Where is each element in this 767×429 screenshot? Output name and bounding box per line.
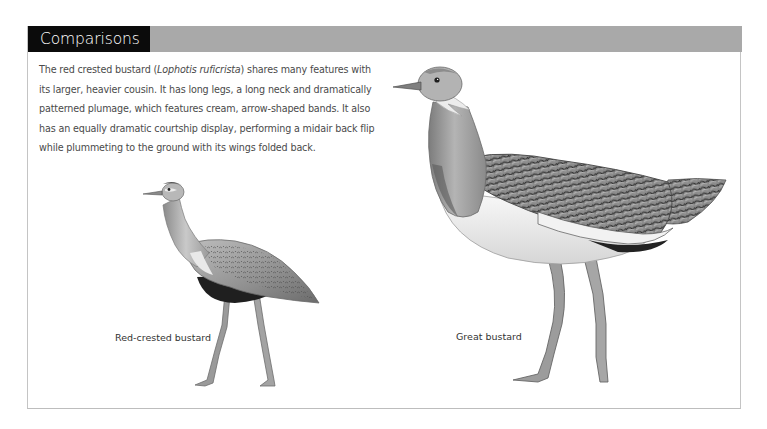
- great-bustard-caption: Great bustard: [456, 331, 522, 342]
- section-header-bar: Comparisons: [28, 26, 742, 52]
- species-latin-name: Lophotis ruficrista: [157, 64, 240, 75]
- section-title: Comparisons: [28, 26, 150, 52]
- red-crested-bustard-illustration: [135, 175, 325, 393]
- great-bustard-illustration: [388, 62, 733, 392]
- intro-text-start: The red crested bustard (: [39, 64, 157, 75]
- intro-paragraph: The red crested bustard (Lophotis ruficr…: [39, 60, 379, 158]
- red-crested-bustard-caption: Red-crested bustard: [115, 332, 211, 343]
- intro-text-end: ) shares many features with its larger, …: [39, 64, 375, 153]
